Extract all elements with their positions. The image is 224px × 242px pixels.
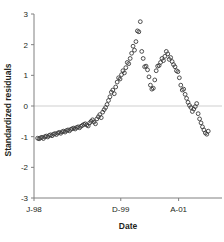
y-tick-label: -3 bbox=[21, 194, 29, 203]
data-point bbox=[183, 92, 187, 96]
data-point bbox=[114, 85, 118, 89]
data-point bbox=[128, 57, 132, 61]
y-axis-ticks: -3-2-10123 bbox=[21, 10, 34, 203]
y-tick-label: 0 bbox=[24, 102, 29, 111]
data-point bbox=[147, 75, 151, 79]
data-point bbox=[140, 50, 144, 54]
data-point bbox=[199, 121, 203, 125]
data-point bbox=[179, 83, 183, 87]
scatter-chart: -3-2-10123 J-98D-99A-01 Standardized res… bbox=[0, 0, 224, 242]
x-tick-label: A-01 bbox=[170, 205, 187, 214]
x-tick-label: D-99 bbox=[112, 205, 130, 214]
data-point bbox=[124, 66, 128, 70]
x-tick-label: J-98 bbox=[26, 205, 42, 214]
data-point bbox=[198, 117, 202, 121]
data-point bbox=[177, 76, 181, 80]
x-axis-title: Date bbox=[119, 221, 138, 231]
data-point bbox=[196, 112, 200, 116]
data-point bbox=[146, 68, 150, 72]
data-point bbox=[138, 20, 142, 24]
data-point bbox=[153, 78, 157, 82]
data-point bbox=[131, 44, 135, 48]
data-point bbox=[185, 96, 189, 100]
data-point bbox=[108, 95, 112, 99]
x-axis-ticks: J-98D-99A-01 bbox=[26, 198, 187, 214]
data-point bbox=[133, 48, 137, 52]
plot-area: -3-2-10123 J-98D-99A-01 Standardized res… bbox=[0, 0, 224, 242]
data-point bbox=[154, 69, 158, 73]
y-tick-label: 2 bbox=[24, 41, 29, 50]
data-point bbox=[107, 99, 111, 103]
y-tick-label: -2 bbox=[21, 163, 29, 172]
data-point bbox=[134, 40, 138, 44]
y-tick-label: 1 bbox=[24, 71, 29, 80]
data-point bbox=[141, 57, 145, 61]
y-tick-label: 3 bbox=[24, 10, 29, 19]
y-axis-title: Standardized residuals bbox=[3, 63, 13, 156]
y-tick-label: -1 bbox=[21, 133, 29, 142]
data-points bbox=[36, 20, 210, 141]
